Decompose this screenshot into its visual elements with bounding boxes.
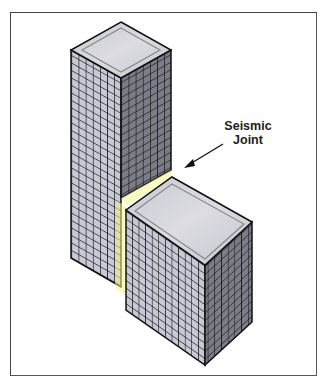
label-line-2: Joint	[208, 133, 288, 147]
label-line-1: Seismic	[208, 119, 288, 133]
tall-tower-left-face	[71, 50, 121, 287]
buildings-illustration	[0, 0, 322, 387]
joint-arrow	[184, 144, 223, 168]
short-building	[126, 177, 252, 365]
seismic-joint-label: Seismic Joint	[208, 119, 288, 147]
